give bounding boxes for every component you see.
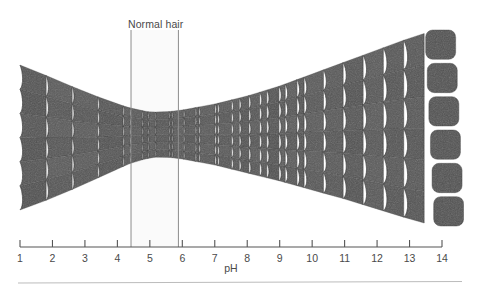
- ph-tick-label: 9: [277, 252, 283, 264]
- detached-cuticle-scales: [426, 30, 464, 226]
- ph-tick-label: 14: [436, 252, 448, 264]
- ph-tick-label: 3: [82, 252, 88, 264]
- ph-tick-label: 4: [114, 252, 120, 264]
- normal-hair-label: Normal hair: [128, 18, 183, 30]
- bottom-rule: [18, 282, 462, 284]
- ph-tick-label: 1: [17, 252, 23, 264]
- ph-tick-label: 6: [179, 252, 185, 264]
- ph-tick-label: 10: [306, 252, 318, 264]
- ph-tick-label: 11: [339, 252, 350, 264]
- ph-tick-label: 12: [371, 252, 383, 264]
- ph-tick-label: 8: [244, 252, 250, 264]
- ph-tick-label: 7: [212, 252, 218, 264]
- figure-root: Normal hair pH 1234567891011121314: [0, 0, 482, 290]
- hair-shaft-scales: [20, 34, 424, 224]
- ph-axis-title: pH: [224, 262, 237, 274]
- ph-axis: [20, 240, 442, 247]
- ph-tick-label: 5: [147, 252, 153, 264]
- hair-cuticle-diagram: [0, 0, 482, 290]
- ph-tick-label: 13: [404, 252, 416, 264]
- ph-tick-label: 2: [50, 252, 56, 264]
